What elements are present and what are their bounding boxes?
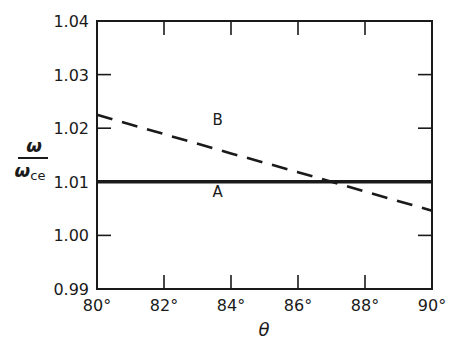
y-tick-label: 0.99 <box>53 280 89 299</box>
series-label-b: B <box>212 111 222 129</box>
series-labels: AB <box>212 111 223 202</box>
x-tick-label: 82° <box>150 296 178 315</box>
y-axis-label-numerator: ω <box>26 135 42 156</box>
data-series <box>97 115 432 211</box>
y-tick-label: 1.01 <box>53 173 89 192</box>
x-axis-label: θ <box>258 319 269 340</box>
series-label-a: A <box>212 183 223 201</box>
x-tick-labels: 80°82°84°86°88°90° <box>83 296 446 315</box>
plot-frame <box>97 21 432 289</box>
y-tick-labels: 0.991.001.011.021.031.04 <box>53 12 89 299</box>
axis-ticks <box>97 21 432 289</box>
line-chart: 80°82°84°86°88°90° 0.991.001.011.021.031… <box>0 0 462 353</box>
y-axis-label: ω ωce <box>15 135 48 183</box>
x-tick-label: 86° <box>284 296 312 315</box>
x-tick-label: 88° <box>351 296 379 315</box>
y-axis-label-denominator: ωce <box>15 160 46 183</box>
y-tick-label: 1.02 <box>53 119 89 138</box>
x-tick-label: 84° <box>217 296 245 315</box>
x-tick-label: 90° <box>418 296 446 315</box>
plot-border <box>97 21 432 289</box>
series-line-b <box>97 115 432 211</box>
chart-container: 80°82°84°86°88°90° 0.991.001.011.021.031… <box>0 0 462 353</box>
y-tick-label: 1.04 <box>53 12 89 31</box>
y-tick-label: 1.03 <box>53 66 89 85</box>
y-tick-label: 1.00 <box>53 226 89 245</box>
